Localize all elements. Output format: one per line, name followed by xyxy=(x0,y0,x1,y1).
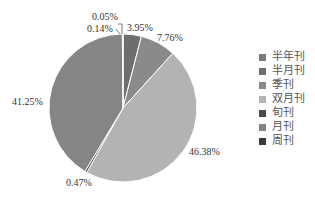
slice-label-shuangyuekan: 46.38% xyxy=(189,146,220,157)
legend-swatch xyxy=(259,110,266,117)
pie-slice-6 xyxy=(122,34,123,108)
legend-item-jikan: 季刊 xyxy=(259,78,305,92)
legend: 半年刊 半月刊 季刊 双月刊 旬刊 月刊 周刊 xyxy=(259,50,305,148)
legend-swatch xyxy=(259,96,266,103)
legend-swatch xyxy=(259,138,266,145)
legend-swatch xyxy=(259,54,266,61)
legend-item-yuekan: 月刊 xyxy=(259,120,305,134)
legend-swatch xyxy=(259,82,266,89)
slice-label-yuekan: 41.25% xyxy=(12,96,43,107)
legend-item-zhoukan: 周刊 xyxy=(259,134,305,148)
legend-item-banniankan: 半年刊 xyxy=(259,50,305,64)
leader-line-0.14 xyxy=(116,29,120,34)
slice-label-banyuekan: 3.95% xyxy=(127,22,153,33)
legend-item-xunkan: 旬刊 xyxy=(259,106,305,120)
legend-item-shuangyuekan: 双月刊 xyxy=(259,92,305,106)
pie-slices xyxy=(49,34,197,182)
slice-label-zhoukan: 0.14% xyxy=(87,23,113,34)
slice-label-banniankan: 0.05% xyxy=(92,11,118,22)
legend-item-banyuekan: 半月刊 xyxy=(259,64,305,78)
legend-swatch xyxy=(259,68,266,75)
slice-label-jikan: 7.76% xyxy=(157,32,183,43)
legend-swatch xyxy=(259,124,266,131)
slice-label-xunkan: 0.47% xyxy=(66,177,92,188)
